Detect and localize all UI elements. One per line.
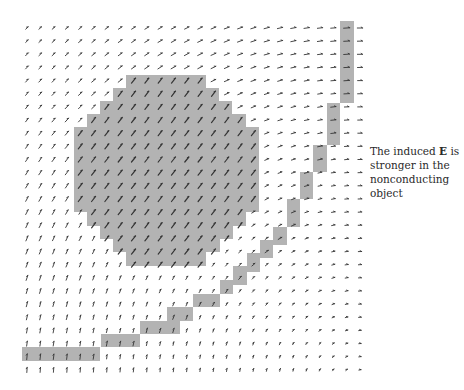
arrowhead <box>307 171 309 172</box>
arrowhead <box>306 224 308 225</box>
arrowhead <box>294 145 296 146</box>
arrowhead <box>267 53 269 54</box>
arrowhead <box>254 79 256 80</box>
arrowhead <box>239 263 241 264</box>
arrowhead <box>346 316 348 317</box>
arrowhead <box>226 250 228 251</box>
arrowhead <box>267 93 269 94</box>
arrowhead <box>307 132 309 133</box>
arrowhead <box>40 79 42 80</box>
arrowhead <box>307 185 309 186</box>
arrowhead <box>333 264 335 265</box>
object-cell <box>113 88 219 101</box>
object-cell <box>126 75 206 88</box>
arrowhead <box>280 93 282 94</box>
arrowhead <box>267 27 269 28</box>
arrowhead <box>320 264 322 265</box>
strip-cell <box>287 199 300 227</box>
arrowhead <box>294 119 296 120</box>
arrowhead <box>281 53 283 54</box>
arrowhead <box>67 92 69 93</box>
arrowhead <box>226 263 228 264</box>
arrowhead <box>267 66 269 67</box>
arrowhead <box>280 158 282 159</box>
caption-line-2: stronger in the <box>370 158 462 172</box>
arrowhead <box>26 66 28 67</box>
arrowhead <box>40 66 42 67</box>
arrowhead <box>281 66 283 67</box>
object-cell <box>87 212 246 226</box>
object-cell <box>87 114 246 127</box>
strip-cell <box>273 227 287 245</box>
arrowhead <box>280 132 282 133</box>
arrowhead <box>346 330 348 331</box>
arrowhead <box>266 303 268 304</box>
nonconducting-object-region <box>74 75 259 266</box>
arrowhead <box>307 211 309 212</box>
arrowhead <box>253 290 255 291</box>
caption-line-3: nonconducting <box>370 172 462 186</box>
field-symbol-e: E <box>439 145 447 157</box>
arrowhead <box>307 145 309 146</box>
caption: The induced E is stronger in the noncond… <box>370 144 462 200</box>
arrowhead <box>26 79 28 80</box>
arrowhead <box>67 105 69 106</box>
arrowhead <box>320 224 322 225</box>
arrowhead <box>80 105 82 106</box>
arrowhead <box>254 27 256 28</box>
arrowhead <box>280 106 282 107</box>
arrowhead <box>281 40 283 41</box>
arrowhead <box>254 40 256 41</box>
caption-line-1: The induced E is <box>370 144 462 158</box>
object-cell <box>113 239 220 252</box>
arrowhead <box>53 131 55 132</box>
strip-cell <box>327 103 340 145</box>
arrowhead <box>267 79 269 80</box>
arrowhead <box>40 92 42 93</box>
arrowhead <box>294 79 296 80</box>
strip-cell <box>22 347 100 361</box>
strip-cell <box>247 253 260 272</box>
arrowhead <box>26 53 28 54</box>
arrowhead <box>333 290 335 291</box>
arrowhead <box>294 66 296 67</box>
arrowhead <box>320 251 322 252</box>
arrowhead <box>320 211 322 212</box>
arrowhead <box>40 53 42 54</box>
arrowhead <box>67 118 69 119</box>
strip-cell <box>260 240 273 258</box>
arrowhead <box>226 277 228 278</box>
arrowhead <box>294 132 296 133</box>
strip-cell <box>313 145 327 172</box>
strip-cell <box>167 307 193 321</box>
arrowhead <box>53 118 55 119</box>
object-cell <box>100 226 233 239</box>
arrowhead <box>53 92 55 93</box>
arrowhead <box>333 251 335 252</box>
arrowhead <box>307 198 309 199</box>
object-cell <box>126 252 206 266</box>
arrowhead <box>293 172 295 173</box>
arrowhead <box>240 276 242 277</box>
arrowhead <box>80 118 82 119</box>
arrowhead <box>333 277 335 278</box>
arrowhead <box>307 106 309 107</box>
arrowhead <box>281 27 283 28</box>
arrowhead <box>279 316 281 317</box>
arrowhead <box>293 158 295 159</box>
arrowhead <box>267 119 269 120</box>
arrowhead <box>320 237 322 238</box>
arrowhead <box>292 329 294 330</box>
strip-cell <box>340 21 354 103</box>
arrowhead <box>320 198 322 199</box>
arrowhead <box>254 53 256 54</box>
arrowhead <box>267 40 269 41</box>
arrowhead <box>53 79 55 80</box>
strip-cell <box>233 266 247 285</box>
arrowhead <box>294 40 296 41</box>
arrowhead <box>294 93 296 94</box>
caption-line-4: object <box>370 186 462 200</box>
arrowhead <box>306 343 308 344</box>
arrowhead <box>281 79 283 80</box>
arrowhead <box>239 290 241 291</box>
